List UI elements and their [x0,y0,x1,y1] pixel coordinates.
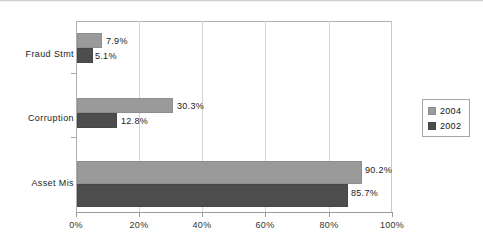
x-tick-label-40: 40% [182,220,222,230]
chart-screenshot: 0% 20% 40% 60% 80% 100% Fraud Stmt 7.9% … [0,0,483,251]
category-label-asset-mis: Asset Mis [31,178,74,188]
legend-entry-2004[interactable]: 2004 [428,106,461,116]
legend-label-2002: 2002 [440,121,461,131]
bar-value-corruption-2002: 12.8% [121,116,148,126]
x-tick-label-80: 80% [309,220,349,230]
bar-corruption-2004 [77,98,173,113]
bar-value-fraud-stmt-2004: 7.9% [106,36,128,46]
x-tick-100 [392,212,393,217]
x-tick-label-20: 20% [119,220,159,230]
legend-swatch-2004-icon [428,107,436,115]
x-tick-40 [202,212,203,217]
bar-value-asset-mis-2002: 85.7% [351,188,378,198]
bar-fraud-stmt-2002 [77,48,93,63]
x-tick-0 [76,212,77,217]
bar-value-corruption-2004: 30.3% [177,101,204,111]
bar-asset-mis-2002 [77,184,348,207]
legend-label-2004: 2004 [440,106,461,116]
x-tick-label-100: 100% [372,220,412,230]
bar-asset-mis-2004 [77,161,362,184]
bar-corruption-2002 [77,113,117,128]
category-label-corruption: Corruption [28,113,74,123]
bar-fraud-stmt-2004 [77,33,102,48]
x-axis-line [76,212,393,213]
legend-entry-2002[interactable]: 2002 [428,121,461,131]
category-label-fraud-stmt: Fraud Stmt [25,49,74,59]
category-tick-2 [71,137,76,138]
x-tick-label-60: 60% [245,220,285,230]
top-border-artifact [0,0,483,2]
legend: 2004 2002 [422,99,470,137]
category-tick-1 [71,73,76,74]
x-tick-80 [329,212,330,217]
x-tick-20 [139,212,140,217]
bar-value-asset-mis-2004: 90.2% [365,165,392,175]
x-tick-60 [265,212,266,217]
bar-value-fraud-stmt-2002: 5.1% [95,51,117,61]
legend-swatch-2002-icon [428,122,436,130]
x-tick-label-0: 0% [56,220,96,230]
